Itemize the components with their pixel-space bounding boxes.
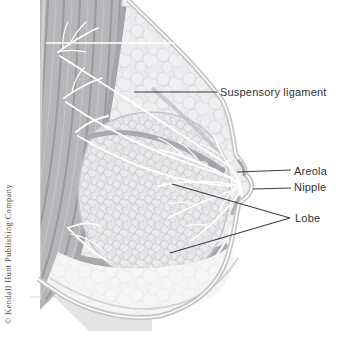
label-suspensory-ligament: Suspensory ligament bbox=[220, 86, 327, 98]
copyright-text: © Kendall Hunt Publishing Company bbox=[4, 184, 13, 324]
breast-anatomy-diagram: Suspensory ligament Areola Nipple Lobe ©… bbox=[0, 0, 344, 339]
leader-nipple bbox=[253, 188, 291, 189]
label-nipple: Nipple bbox=[294, 181, 326, 193]
label-areola: Areola bbox=[294, 165, 328, 177]
anatomy-figure: Suspensory ligament Areola Nipple Lobe ©… bbox=[0, 0, 344, 339]
label-lobe: Lobe bbox=[295, 212, 320, 224]
